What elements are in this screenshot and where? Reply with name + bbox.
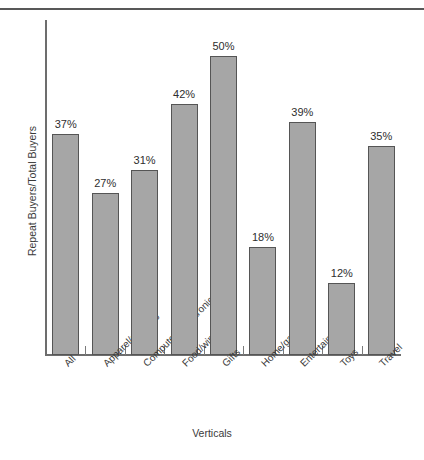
bar[interactable] bbox=[92, 193, 119, 355]
bar-group bbox=[52, 134, 79, 355]
x-axis-tick bbox=[243, 346, 244, 355]
x-axis-category-label: All bbox=[62, 353, 78, 369]
bar-value-label: 31% bbox=[134, 154, 156, 166]
x-axis-tick bbox=[362, 346, 363, 355]
bar-value-label: 39% bbox=[291, 106, 313, 118]
bar-group bbox=[328, 283, 355, 355]
bar[interactable] bbox=[171, 104, 198, 355]
bar-value-label: 50% bbox=[212, 40, 234, 52]
bar[interactable] bbox=[328, 283, 355, 355]
bar-value-label: 35% bbox=[370, 130, 392, 142]
bar-group bbox=[249, 247, 276, 355]
bar-value-label: 18% bbox=[252, 231, 274, 243]
bar-group bbox=[368, 146, 395, 355]
bar[interactable] bbox=[52, 134, 79, 355]
bar-group bbox=[210, 56, 237, 355]
bar-chart: Repeat Buyers/Total Buyers Verticals 37%… bbox=[0, 0, 424, 460]
x-axis-tick bbox=[85, 346, 86, 355]
bar-value-label: 42% bbox=[173, 88, 195, 100]
bar[interactable] bbox=[368, 146, 395, 355]
bar-group bbox=[289, 122, 316, 355]
bar-value-label: 37% bbox=[55, 118, 77, 130]
bar-group bbox=[92, 193, 119, 355]
bar-value-label: 27% bbox=[94, 177, 116, 189]
bar[interactable] bbox=[131, 170, 158, 355]
bars-layer: 37%All27%Apparel/sporting31%Computers/el… bbox=[0, 0, 424, 460]
bar[interactable] bbox=[289, 122, 316, 355]
bar-group bbox=[171, 104, 198, 355]
bar-value-label: 12% bbox=[331, 267, 353, 279]
bar[interactable] bbox=[210, 56, 237, 355]
bar[interactable] bbox=[249, 247, 276, 355]
bar-group bbox=[131, 170, 158, 355]
